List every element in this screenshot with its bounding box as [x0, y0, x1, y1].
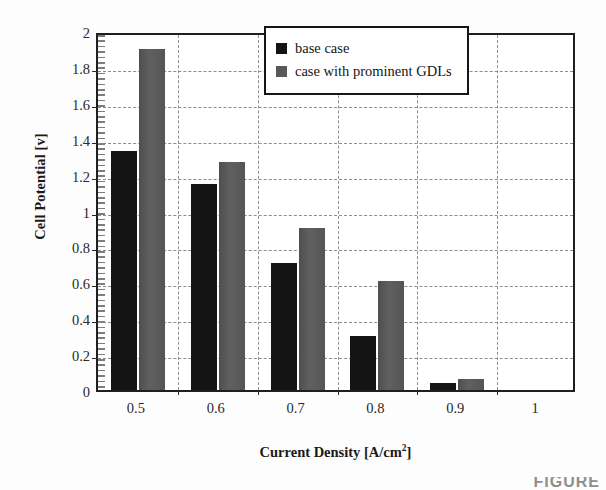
x-tick-mark	[338, 390, 339, 395]
gridline-horizontal	[98, 322, 573, 323]
y-tick-label: 1.2	[30, 168, 90, 185]
y-tick-mark	[92, 179, 98, 180]
gridline-vertical	[178, 35, 179, 390]
gridline-horizontal	[98, 215, 573, 216]
y-tick-mark	[92, 322, 98, 323]
y-tick-mark	[92, 250, 98, 251]
bar-case-with-prominent-gdls-0.5	[139, 49, 165, 390]
x-tick-mark	[258, 390, 259, 395]
y-tick-mark	[92, 286, 98, 287]
y-tick-label: 1.8	[30, 60, 90, 77]
x-axis-title-suffix: ]	[407, 444, 412, 460]
bar-case-with-prominent-gdls-0.6	[219, 162, 245, 390]
y-tick-label: 0.8	[30, 240, 90, 257]
y-tick-mark	[92, 358, 98, 359]
x-tick-label: 1	[505, 400, 565, 417]
y-tick-mark	[92, 143, 98, 144]
legend-swatch-icon-series-0	[276, 43, 287, 54]
gridline-horizontal	[98, 107, 573, 108]
bar-base-case-0.9	[430, 383, 456, 390]
bar-case-with-prominent-gdls-0.9	[458, 379, 484, 390]
x-tick-mark	[417, 390, 418, 395]
x-tick-label: 0.8	[345, 400, 405, 417]
x-tick-label: 0.9	[425, 400, 485, 417]
gridline-horizontal	[98, 250, 573, 251]
bar-base-case-0.6	[191, 184, 217, 390]
y-tick-label: 1	[30, 204, 90, 221]
y-tick-label: 0	[30, 384, 90, 401]
legend-entry-prominent-gdls: case with prominent GDLs	[276, 60, 457, 83]
caption-fragment: FIGURE	[534, 477, 600, 488]
legend-label-series-1: case with prominent GDLs	[295, 63, 452, 80]
y-axis-minor-ticks	[98, 35, 105, 390]
x-tick-mark	[178, 390, 179, 395]
gridline-horizontal	[98, 286, 573, 287]
y-tick-mark	[92, 215, 98, 216]
x-axis-title: Current Density [A/cm2]	[96, 443, 575, 461]
gridline-horizontal	[98, 358, 573, 359]
gridline-vertical	[258, 35, 259, 390]
bar-base-case-0.7	[271, 263, 297, 390]
y-tick-label: 0.6	[30, 276, 90, 293]
y-tick-label: 1.6	[30, 96, 90, 113]
gridline-horizontal	[98, 179, 573, 180]
y-tick-mark	[92, 71, 98, 72]
legend-label-series-0: base case	[295, 40, 349, 57]
y-tick-label: 0.4	[30, 312, 90, 329]
legend: base case case with prominent GDLs	[264, 26, 469, 95]
x-tick-mark	[497, 390, 498, 395]
legend-entry-base-case: base case	[276, 37, 457, 60]
figure-bar-chart: Cell Potential [v] Current Density [A/cm…	[0, 0, 606, 490]
x-tick-label: 0.7	[266, 400, 326, 417]
bar-base-case-0.8	[350, 336, 376, 390]
bar-case-with-prominent-gdls-0.7	[299, 228, 325, 390]
x-tick-label: 0.6	[186, 400, 246, 417]
bar-base-case-0.5	[111, 151, 137, 390]
x-axis-title-prefix: Current Density [A/cm	[260, 444, 402, 460]
y-tick-label: 0.2	[30, 348, 90, 365]
y-tick-label: 1.4	[30, 132, 90, 149]
x-tick-label: 0.5	[106, 400, 166, 417]
bar-case-with-prominent-gdls-0.8	[378, 281, 404, 390]
legend-swatch-icon-series-1	[276, 66, 287, 77]
gridline-horizontal	[98, 143, 573, 144]
y-tick-label: 2	[30, 25, 90, 42]
gridline-vertical	[497, 35, 498, 390]
y-tick-mark	[92, 107, 98, 108]
